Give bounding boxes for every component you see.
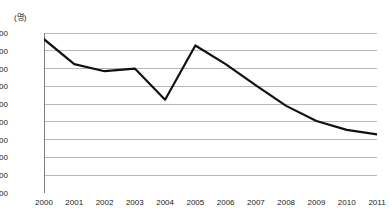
x-axis-tick-label: 2007 (247, 198, 265, 207)
y-axis-tick-label: 62,000 (0, 64, 8, 73)
y-axis-tick-label: 66,000 (0, 29, 8, 38)
x-axis-tick-label: 2006 (217, 198, 235, 207)
line-chart: (명) 66,00064,00062,00060,00058,00056,000… (0, 0, 390, 220)
x-axis-tick-label: 2005 (186, 198, 204, 207)
y-axis-unit-label: (명) (14, 11, 26, 22)
x-axis-tick-label: 2001 (65, 198, 83, 207)
x-axis-tick-label: 2009 (308, 198, 326, 207)
x-axis-tick-label: 2004 (156, 198, 174, 207)
axis-lines (44, 33, 377, 193)
chart-canvas (44, 33, 377, 193)
y-axis-tick-label: 54,000 (0, 135, 8, 144)
x-axis-tick-label: 2002 (96, 198, 114, 207)
y-axis-tick-label: 48,000 (0, 189, 8, 198)
y-axis-tick-label: 50,000 (0, 171, 8, 180)
x-axis-tick-label: 2000 (35, 198, 53, 207)
x-axis-tick-label: 2003 (126, 198, 144, 207)
gridlines (44, 33, 377, 193)
y-axis-tick-label: 64,000 (0, 46, 8, 55)
x-axis-tick-label: 2011 (368, 198, 385, 207)
plot-area (44, 33, 377, 193)
x-axis-tick-label: 2008 (277, 198, 295, 207)
x-axis-tick-label: 2010 (338, 198, 356, 207)
y-axis-tick-label: 58,000 (0, 100, 8, 109)
y-axis-tick-label: 60,000 (0, 82, 8, 91)
y-axis-tick-label: 56,000 (0, 117, 8, 126)
y-axis-tick-label: 52,000 (0, 153, 8, 162)
